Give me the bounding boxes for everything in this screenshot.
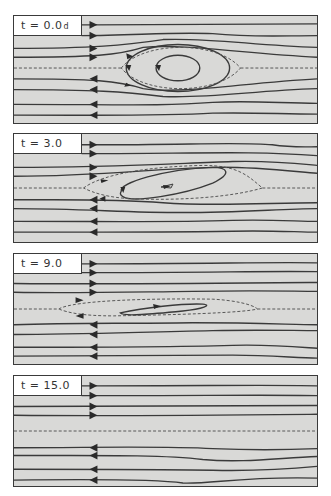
time-label-t15: t = 15.0 — [14, 376, 82, 396]
time-label-t9: t = 9.0 — [14, 254, 82, 274]
time-label-t3: t = 3.0 — [14, 134, 82, 154]
panel-t3: t = 3.0 — [13, 133, 318, 243]
time-value: 0.0 — [44, 19, 63, 32]
panel-t9: t = 9.0 — [13, 253, 318, 365]
panel-t15: t = 15.0 — [13, 375, 318, 487]
time-value: 3.0 — [44, 137, 63, 150]
time-prefix: t = — [21, 257, 44, 270]
time-prefix: t = — [21, 137, 44, 150]
panel-t0: t = 0.0d — [13, 15, 318, 124]
time-prefix: t = — [21, 379, 44, 392]
time-value: 9.0 — [44, 257, 63, 270]
time-prefix: t = — [21, 19, 44, 32]
time-label-t0: t = 0.0d — [14, 16, 82, 36]
time-value: 15.0 — [44, 379, 71, 392]
time-unit: d — [64, 22, 70, 31]
